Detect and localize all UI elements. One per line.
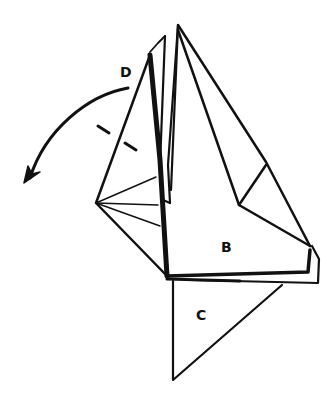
base-edges [167,246,319,283]
right-flap [178,25,310,246]
origami-diagram: D B C [0,0,332,407]
label-b: B [221,239,232,255]
flap-c [173,281,282,380]
fold-arrow [24,88,128,183]
left-flap-d [96,55,167,276]
fan-creases [96,177,160,226]
label-c: C [196,307,206,323]
label-d: D [120,64,132,80]
